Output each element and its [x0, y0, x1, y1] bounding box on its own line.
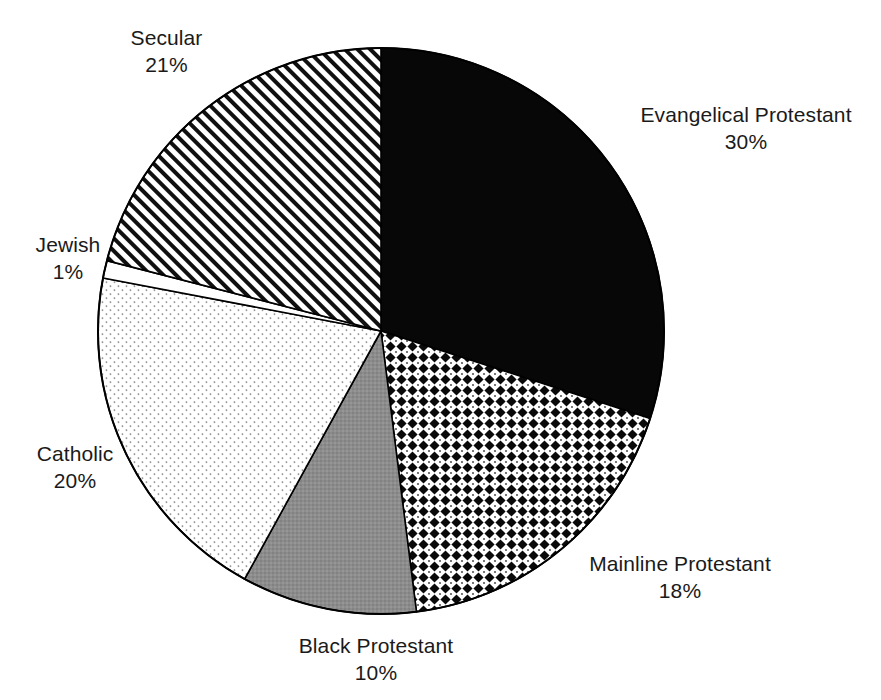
pie-chart-figure: Secular 21% Evangelical Protestant 30% J… — [0, 0, 881, 700]
pie-label-evangelical-protestant-value: 30% — [621, 128, 871, 155]
pie-label-jewish-name: Jewish — [8, 231, 128, 258]
pie-label-catholic: Catholic 20% — [10, 440, 140, 494]
pie-label-black-protestant-value: 10% — [256, 659, 496, 686]
pie-label-catholic-value: 20% — [10, 467, 140, 494]
pie-label-jewish: Jewish 1% — [8, 231, 128, 285]
pie-label-secular-name: Secular — [84, 24, 249, 51]
pie-label-black-protestant: Black Protestant 10% — [256, 632, 496, 686]
pie-label-mainline-protestant: Mainline Protestant 18% — [565, 550, 795, 604]
pie-label-evangelical-protestant: Evangelical Protestant 30% — [621, 101, 871, 155]
pie-label-evangelical-protestant-name: Evangelical Protestant — [621, 101, 871, 128]
pie-label-mainline-protestant-value: 18% — [565, 577, 795, 604]
pie-label-mainline-protestant-name: Mainline Protestant — [565, 550, 795, 577]
pie-label-secular: Secular 21% — [84, 24, 249, 78]
pie-label-catholic-name: Catholic — [10, 440, 140, 467]
pie-label-secular-value: 21% — [84, 51, 249, 78]
pie-label-jewish-value: 1% — [8, 258, 128, 285]
pie-label-black-protestant-name: Black Protestant — [256, 632, 496, 659]
pie-slices — [98, 48, 664, 614]
